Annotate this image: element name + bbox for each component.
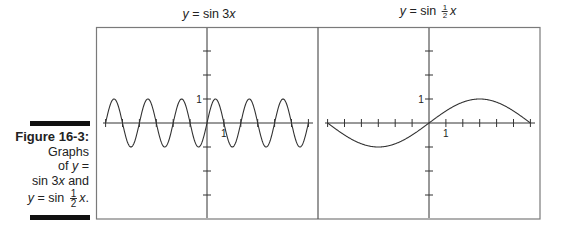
y-tick-label: 1 bbox=[418, 94, 424, 105]
y-tick-label: 1 bbox=[196, 94, 202, 105]
graphs-canvas: 11 11 bbox=[0, 0, 569, 229]
right-graph: 11 bbox=[325, 28, 535, 218]
left-graph: 11 bbox=[103, 28, 313, 218]
x-tick-label: 1 bbox=[443, 128, 449, 139]
